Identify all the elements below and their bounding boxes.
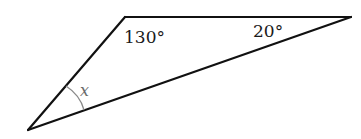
triangle-figure: 130° 20° x	[0, 0, 361, 139]
angle-label-x: x	[80, 81, 89, 100]
angle-label-130: 130°	[124, 27, 165, 47]
triangle-diagram: 130° 20° x	[0, 0, 361, 139]
angle-label-20: 20°	[253, 21, 283, 41]
